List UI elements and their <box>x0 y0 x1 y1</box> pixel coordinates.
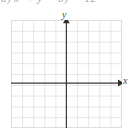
header-fragment-part-a: a) x² + y² <box>1 0 46 5</box>
clipped-header-text: a) x² + y² b) 12 <box>0 0 132 6</box>
x-axis-label: x <box>123 76 127 86</box>
header-fragment-part-b: b) <box>58 0 68 5</box>
coordinate-grid-figure: a) x² + y² b) 12 <box>0 0 132 138</box>
y-axis-label: y <box>62 10 66 20</box>
grid-plate <box>11 20 122 128</box>
grid-svg <box>11 20 122 128</box>
header-fragment-part-c: 12 <box>84 0 96 5</box>
